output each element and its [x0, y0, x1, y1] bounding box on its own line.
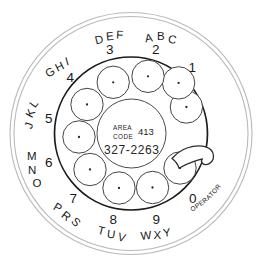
finger-hole-8[interactable] — [103, 172, 135, 204]
letter-group-prs: P R S — [52, 200, 84, 229]
letter-v: V — [116, 230, 127, 244]
digit-label-3: 3 — [106, 42, 114, 57]
finger-hole-6[interactable] — [63, 121, 95, 153]
area-label-line2: CODE — [113, 133, 133, 140]
letter-e: E — [105, 30, 114, 43]
finger-hole-7[interactable] — [74, 153, 106, 185]
letter-c: C — [167, 33, 177, 46]
letter-m: M — [27, 150, 37, 162]
digit-label-5: 5 — [45, 111, 53, 126]
letter-i: I — [64, 55, 70, 67]
digit-label-2: 2 — [152, 42, 160, 57]
letter-group-mno: M N O — [27, 150, 42, 189]
digit-label-6: 6 — [45, 155, 53, 170]
letter-f: F — [116, 29, 124, 41]
letter-y: Y — [162, 226, 172, 239]
finger-hole-4[interactable] — [97, 66, 129, 98]
letter-h: H — [53, 59, 66, 73]
letter-group-wxy: W X Y — [140, 226, 172, 242]
letter-l: L — [27, 97, 41, 110]
letter-w: W — [140, 229, 152, 242]
digit-label-4: 4 — [67, 70, 75, 85]
digit-label-8: 8 — [110, 212, 118, 227]
dial-graphic: AREA CODE 413 327-2263 — [0, 0, 262, 267]
letter-j: J — [22, 121, 35, 131]
letter-b: B — [157, 30, 165, 42]
letter-u: U — [106, 228, 116, 241]
letter-o: O — [33, 177, 42, 189]
letter-n: N — [28, 164, 36, 176]
finger-hole-9[interactable] — [136, 171, 168, 203]
finger-hole-3[interactable] — [132, 60, 164, 92]
digit-label-1: 1 — [189, 60, 197, 75]
digit-label-9: 9 — [153, 212, 161, 227]
letter-group-jkl: J K L — [22, 97, 41, 130]
rotary-dial-faceplate: AREA CODE 413 327-2263 — [0, 0, 262, 267]
letter-x: X — [154, 229, 162, 241]
letter-t: T — [97, 224, 107, 237]
area-code-value: 413 — [138, 126, 154, 137]
area-label-line1: AREA — [113, 124, 132, 131]
finger-hole-5[interactable] — [71, 88, 103, 120]
letter-d: D — [94, 33, 105, 47]
letter-s: S — [69, 215, 83, 229]
letter-group-abc: A B C — [144, 30, 178, 46]
letter-a: A — [144, 31, 154, 44]
digit-label-7: 7 — [70, 191, 78, 206]
phone-number-value: 327-2263 — [104, 143, 160, 157]
